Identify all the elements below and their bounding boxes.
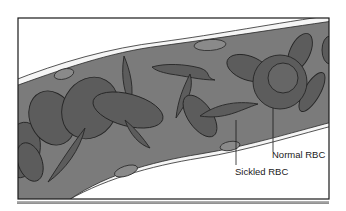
- footer-bar: [17, 201, 329, 204]
- sickled-rbc: [322, 36, 338, 64]
- normal-rbc-label: Normal RBC: [272, 149, 325, 160]
- sickle-cell-illustration: Normal RBC Sickled RBC: [0, 0, 346, 211]
- normal-rbc-center: [268, 63, 298, 93]
- sickled-rbc-label: Sickled RBC: [235, 166, 288, 177]
